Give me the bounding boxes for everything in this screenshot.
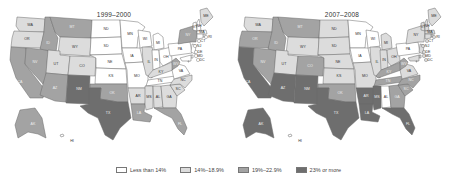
- legend: Less than 14% 14%–18.9% 19%–22.9% 23% or…: [0, 163, 457, 177]
- state-label-ok: OK: [109, 91, 115, 95]
- state-label-me: ME: [431, 14, 437, 18]
- state-label-az: AZ: [53, 86, 58, 90]
- state-label-tn: TN: [386, 79, 391, 83]
- legend-item-less-than-14: Less than 14%: [116, 167, 166, 173]
- state-label-ut: UT: [54, 62, 60, 66]
- state-label-wi: WI: [143, 37, 147, 41]
- state-label-ca: CA: [246, 80, 252, 84]
- state-label-nv: NV: [261, 60, 267, 64]
- state-dc: [416, 61, 417, 62]
- legend-swatch: [238, 167, 249, 173]
- state-hi: [60, 134, 64, 137]
- state-label-ia: IA: [358, 54, 362, 58]
- state-label-wi: WI: [371, 37, 375, 41]
- state-label-ri: RI: [208, 35, 212, 39]
- state-label-ma: MA: [427, 30, 433, 34]
- state-label-wa: WA: [255, 23, 261, 27]
- state-label-va: VA: [407, 69, 412, 73]
- state-label-oh: OH: [163, 55, 169, 59]
- state-label-wy: WY: [72, 45, 78, 49]
- legend-item-19-22: 19%–22.9%: [238, 167, 282, 173]
- state-label-nv: NV: [33, 60, 39, 64]
- state-label-mi: MI: [156, 41, 160, 45]
- state-label-wa: WA: [27, 23, 33, 27]
- state-label-wv: WV: [173, 62, 179, 66]
- state-label-sc: SC: [176, 87, 181, 91]
- state-label-nh: NH: [196, 24, 202, 28]
- state-label-al: AL: [156, 95, 160, 99]
- state-label-or: OR: [252, 37, 258, 41]
- state-label-pa: PA: [178, 47, 183, 51]
- state-label-nh: NH: [424, 24, 430, 28]
- state-label-ca: CA: [18, 80, 24, 84]
- legend-label: 23% or more: [310, 167, 342, 173]
- legend-label: 14%–18.9%: [194, 167, 224, 173]
- state-label-wv: WV: [401, 62, 407, 66]
- state-label-mt: MT: [69, 25, 75, 29]
- state-label-id: ID: [46, 41, 50, 45]
- state-label-id: ID: [274, 41, 278, 45]
- state-label-wy: WY: [300, 45, 306, 49]
- state-md: [180, 55, 191, 61]
- state-hi: [288, 134, 292, 137]
- state-label-va: VA: [179, 69, 184, 73]
- state-label-mt: MT: [297, 25, 303, 29]
- us-map: WAORCANVIDMTWYUTCOAZNMNDSDNEKSOKTXMNIAMO…: [228, 0, 456, 160]
- state-label-sd: SD: [104, 44, 109, 48]
- state-label-ct: CT: [429, 39, 435, 43]
- state-label-dc: DC: [427, 58, 433, 62]
- state-label-ar: AR: [364, 94, 369, 98]
- state-label-mn: MN: [355, 32, 361, 36]
- legend-swatch: [116, 167, 127, 173]
- state-label-ne: NE: [336, 60, 342, 64]
- state-label-sc: SC: [404, 87, 409, 91]
- state-label-mi: MI: [384, 41, 388, 45]
- state-label-me: ME: [203, 14, 209, 18]
- state-label-az: AZ: [281, 86, 286, 90]
- state-label-la: LA: [137, 111, 142, 115]
- state-label-hi: HI: [298, 139, 302, 143]
- state-label-la: LA: [365, 111, 370, 115]
- legend-item-14-18: 14%–18.9%: [180, 167, 224, 173]
- legend-swatch: [296, 167, 307, 173]
- state-label-nj: NJ: [425, 44, 430, 48]
- state-label-dc: DC: [199, 58, 205, 62]
- state-label-nc: NC: [408, 78, 414, 82]
- state-label-ct: CT: [201, 39, 207, 43]
- state-label-ny: NY: [414, 33, 420, 37]
- state-label-ms: MS: [146, 95, 152, 99]
- legend-item-23-plus: 23% or more: [296, 167, 342, 173]
- state-label-il: IL: [376, 60, 379, 64]
- state-label-sd: SD: [332, 44, 337, 48]
- state-label-ak: AK: [259, 122, 264, 126]
- state-label-tx: TX: [106, 111, 111, 115]
- state-label-ar: AR: [136, 94, 141, 98]
- state-label-nc: NC: [180, 78, 186, 82]
- legend-swatch: [180, 167, 191, 173]
- state-label-nm: NM: [304, 87, 310, 91]
- state-label-nm: NM: [76, 87, 82, 91]
- state-label-fl: FL: [406, 122, 410, 126]
- state-label-fl: FL: [178, 122, 182, 126]
- map-1999-2000: 1999–2000 WAORCANVIDMTWYUTCOAZNMNDSDNEKS…: [0, 0, 228, 160]
- state-label-al: AL: [384, 95, 388, 99]
- state-label-or: OR: [24, 37, 30, 41]
- state-label-ne: NE: [108, 60, 114, 64]
- state-label-mn: MN: [127, 32, 133, 36]
- state-label-ak: AK: [31, 122, 36, 126]
- state-de: [419, 55, 421, 58]
- state-label-tx: TX: [334, 111, 339, 115]
- legend-label: 19%–22.9%: [252, 167, 282, 173]
- state-label-mo: MO: [134, 74, 140, 78]
- state-label-ia: IA: [130, 54, 134, 58]
- us-map: WAORCANVIDMTWYUTCOAZNMNDSDNEKSOKTXMNIAMO…: [0, 0, 228, 160]
- state-dc: [188, 61, 189, 62]
- state-label-ny: NY: [186, 33, 192, 37]
- state-label-nd: ND: [331, 27, 337, 31]
- state-label-ri: RI: [436, 35, 440, 39]
- map-2007-2008: 2007–2008 WAORCANVIDMTWYUTCOAZNMNDSDNEKS…: [228, 0, 456, 160]
- state-label-ok: OK: [337, 91, 343, 95]
- state-de: [191, 55, 193, 58]
- state-label-hi: HI: [70, 139, 74, 143]
- state-label-tn: TN: [158, 79, 163, 83]
